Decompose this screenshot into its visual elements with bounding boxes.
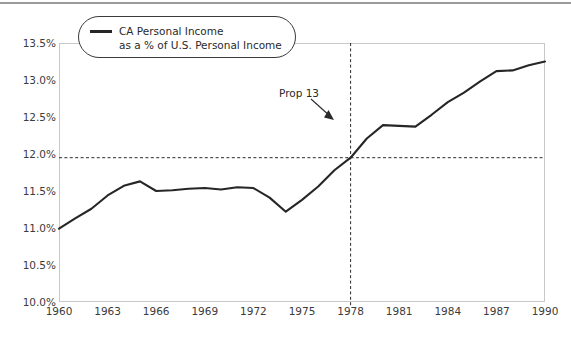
- legend-line-swatch-icon: [90, 30, 112, 33]
- legend-label: CA Personal Income as a % of U.S. Person…: [119, 24, 282, 52]
- chart-figure: 10.0%10.5%11.0%11.5%12.0%12.5%13.0%13.5%…: [0, 0, 571, 347]
- prop13-arrow: [311, 99, 334, 120]
- legend-label-line2: as a % of U.S. Personal Income: [119, 39, 282, 51]
- legend-entry: CA Personal Income as a % of U.S. Person…: [90, 24, 282, 52]
- legend-label-line1: CA Personal Income: [119, 25, 223, 37]
- reference-lines: [59, 43, 545, 307]
- prop13-annotation-label: Prop 13: [279, 88, 319, 99]
- legend-box: CA Personal Income as a % of U.S. Person…: [78, 16, 296, 58]
